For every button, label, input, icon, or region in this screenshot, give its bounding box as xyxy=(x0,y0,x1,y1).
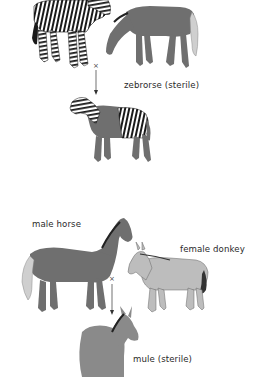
male-horse-illustration xyxy=(22,218,133,312)
zebrorse-illustration xyxy=(70,98,151,163)
cross-symbol-1: × xyxy=(93,63,99,70)
zebrorse-label: zebrorse (sterile) xyxy=(124,80,199,90)
diagram-canvas xyxy=(0,0,255,377)
female-donkey-label: female donkey xyxy=(180,244,245,254)
mule-illustration xyxy=(79,306,138,377)
horse-grazing-illustration xyxy=(106,6,198,68)
male-horse-label: male horse xyxy=(32,219,81,229)
zebra-illustration xyxy=(32,0,111,68)
mule-label: mule (sterile) xyxy=(133,354,192,364)
cross-symbol-2: × xyxy=(109,276,115,283)
cross-arrow-2 xyxy=(110,284,114,315)
cross-arrow-1 xyxy=(94,70,98,95)
